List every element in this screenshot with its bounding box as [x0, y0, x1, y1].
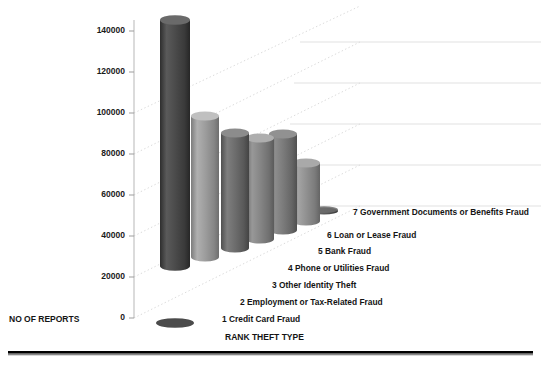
category-label-7: 7 Government Documents or Benefits Fraud: [353, 207, 529, 217]
bottom-divider: [8, 351, 533, 354]
x-axis-title: RANK THEFT TYPE: [225, 332, 304, 342]
bar-3-other-identity-theft[interactable]: [221, 128, 249, 252]
y-axis-title: NO OF REPORTS: [9, 314, 80, 324]
y-tick-label-60000: 60000: [101, 189, 125, 199]
bar-2-employment-or-tax-related[interactable]: [191, 111, 219, 261]
chart-container: 140000 120000 100000 80000 60000 40000 2…: [0, 0, 541, 367]
category-label-1: 1 Credit Card Fraud: [222, 314, 300, 324]
y-tick-label-40000: 40000: [101, 230, 125, 240]
category-label-5: 5 Bank Fraud: [318, 246, 371, 256]
category-label-6: 6 Loan or Lease Fraud: [327, 230, 416, 240]
bar-1-credit-card-fraud[interactable]: [160, 15, 190, 271]
category-label-3: 3 Other Identity Theft: [272, 280, 356, 290]
y-tick-label-20000: 20000: [101, 271, 125, 281]
bar-4-phone-or-utilities[interactable]: [246, 133, 274, 243]
bottom-divider-shadow: [8, 354, 533, 355]
y-tick-label-100000: 100000: [97, 107, 126, 117]
bar-chart-3d: 140000 120000 100000 80000 60000 40000 2…: [0, 0, 541, 367]
y-tick-label-120000: 120000: [97, 66, 126, 76]
y-tick-label-0: 0: [120, 312, 125, 322]
category-label-2: 2 Employment or Tax-Related Fraud: [240, 297, 383, 307]
y-tick-label-80000: 80000: [101, 148, 125, 158]
category-label-4: 4 Phone or Utilities Fraud: [288, 263, 389, 273]
y-tick-label-140000: 140000: [97, 25, 126, 35]
origin-base-marker: [156, 318, 194, 328]
